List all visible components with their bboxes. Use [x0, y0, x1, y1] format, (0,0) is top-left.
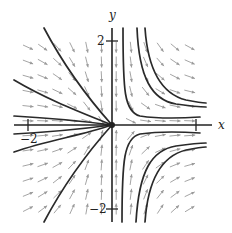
field-arrow-icon [70, 204, 75, 214]
field-arrow-icon [184, 134, 195, 137]
field-arrow-icon [68, 161, 76, 169]
field-arrow-icon [129, 145, 133, 155]
field-arrow-icon [130, 160, 133, 171]
field-arrow-icon [23, 45, 33, 50]
field-arrow-icon [140, 120, 151, 123]
field-arrow-icon [100, 174, 103, 185]
trajectory-left-upper-shallow [14, 80, 112, 125]
y-tick-label-neg2: −2 [89, 202, 107, 216]
field-arrow-icon [38, 44, 47, 50]
field-arrow-icon [52, 148, 62, 152]
field-arrow-icon [185, 177, 195, 181]
field-arrow-icon [155, 134, 166, 137]
field-arrow-icon [170, 134, 181, 137]
field-arrow-icon [52, 89, 62, 94]
field-arrow-icon [85, 72, 89, 82]
field-arrow-icon [69, 57, 75, 66]
field-arrow-icon [170, 177, 180, 183]
field-arrow-icon [170, 59, 179, 65]
field-arrow-icon [53, 74, 62, 80]
field-arrow-icon [100, 71, 103, 82]
field-arrow-icon [185, 192, 195, 197]
field-arrow-icon [130, 174, 133, 185]
field-arrow-icon [38, 163, 48, 167]
field-arrow-icon [157, 43, 163, 52]
field-arrow-icon [86, 57, 89, 68]
field-arrow-icon [185, 45, 195, 50]
field-arrow-icon [52, 105, 63, 109]
field-arrow-icon [170, 74, 180, 79]
field-arrow-icon [52, 134, 63, 137]
x-axis-label: x [218, 118, 225, 132]
field-arrow-icon [170, 163, 180, 168]
y-tick-label-pos2: 2 [97, 34, 105, 48]
field-arrow-icon [86, 189, 89, 200]
field-arrow-icon [37, 134, 48, 137]
equilibrium-point [109, 122, 115, 128]
field-arrow-icon [115, 42, 118, 53]
field-arrow-icon [115, 130, 118, 141]
trajectory-right-upper-2 [137, 28, 206, 107]
field-arrow-icon [184, 119, 195, 122]
field-arrow-icon [86, 42, 89, 53]
field-arrow-icon [23, 192, 33, 197]
field-arrow-icon [23, 163, 34, 166]
field-arrow-icon [115, 174, 118, 185]
field-arrow-icon [130, 71, 133, 82]
field-arrow-icon [53, 58, 61, 65]
phase-portrait: −2 2 −2 x y [0, 0, 232, 233]
field-arrow-icon [130, 189, 133, 200]
field-arrow-icon [155, 104, 165, 108]
field-arrow-icon [85, 174, 89, 185]
field-arrow-icon [185, 60, 195, 65]
field-arrow-icon [100, 145, 103, 156]
field-arrow-icon [142, 87, 149, 96]
field-arrow-icon [100, 101, 103, 112]
field-arrow-icon [23, 60, 33, 64]
field-arrow-icon [156, 176, 164, 184]
field-arrow-icon [70, 42, 75, 52]
field-arrow-icon [38, 75, 48, 80]
field-arrow-icon [53, 176, 62, 183]
trajectory-right-upper-1 [123, 28, 200, 118]
field-arrow-icon [23, 105, 34, 108]
field-arrow-icon [100, 57, 103, 68]
field-arrow-icon [130, 204, 133, 215]
field-arrow-icon [85, 160, 89, 170]
field-arrow-icon [115, 71, 118, 82]
field-arrow-icon [38, 177, 48, 182]
field-arrow-icon [156, 89, 165, 95]
field-arrow-icon [143, 57, 148, 67]
field-arrow-icon [144, 189, 148, 199]
field-arrow-icon [53, 162, 63, 167]
field-arrow-icon [83, 102, 90, 111]
field-arrow-icon [115, 145, 118, 156]
field-arrow-icon [130, 86, 133, 97]
field-arrow-icon [115, 189, 118, 200]
field-arrow-icon [184, 90, 195, 93]
field-arrow-icon [100, 159, 103, 170]
field-arrow-icon [68, 88, 76, 95]
field-arrow-icon [37, 119, 48, 122]
field-arrow-icon [157, 58, 164, 66]
field-arrow-icon [115, 101, 118, 112]
field-arrow-icon [23, 207, 33, 212]
field-arrow-icon [130, 42, 133, 53]
field-arrow-icon [38, 59, 48, 64]
field-arrow-icon [157, 204, 163, 213]
x-tick-label-neg2: −2 [20, 132, 38, 146]
field-arrow-icon [70, 190, 75, 200]
field-arrow-icon [171, 205, 179, 212]
field-arrow-icon [23, 75, 34, 79]
field-arrow-icon [171, 44, 179, 51]
field-arrow-icon [185, 75, 195, 79]
field-arrow-icon [100, 86, 103, 97]
field-arrow-icon [155, 119, 166, 122]
field-arrow-icon [38, 191, 47, 197]
field-arrow-icon [170, 148, 181, 152]
field-arrow-icon [141, 103, 150, 109]
field-arrow-icon [54, 205, 61, 213]
field-arrow-icon [126, 118, 136, 123]
field-arrow-icon [170, 105, 181, 108]
field-arrow-icon [100, 189, 103, 200]
